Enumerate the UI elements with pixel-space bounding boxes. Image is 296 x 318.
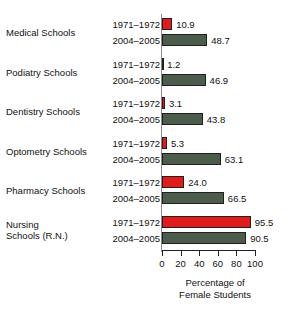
bar-value-label: 46.9 — [210, 75, 229, 86]
bar — [162, 176, 184, 188]
bar-group: Medical Schools1971–197210.92004–200548.… — [0, 14, 296, 52]
period-label: 1971–1972 — [106, 98, 160, 109]
bar-row: 2004–200546.9 — [0, 73, 296, 88]
bar-value-label: 1.2 — [167, 59, 180, 70]
bar-row: 1971–197210.9 — [0, 17, 296, 32]
bar-group-series: 1971–197210.92004–200548.7 — [0, 14, 296, 52]
period-label: 2004–2005 — [106, 75, 160, 86]
bar-group: Nursing Schools (R.N.)1971–197295.52004–… — [0, 212, 296, 250]
bar — [162, 192, 224, 204]
bar-row: 1971–19721.2 — [0, 57, 296, 72]
bar-value-label: 63.1 — [225, 154, 244, 165]
bar — [162, 97, 165, 109]
period-label: 1971–1972 — [106, 138, 160, 149]
bar-value-label: 5.3 — [171, 138, 184, 149]
bar-row: 2004–200543.8 — [0, 112, 296, 127]
bar — [162, 34, 207, 46]
bar-value-label: 48.7 — [211, 35, 230, 46]
bar — [162, 216, 251, 228]
axis-tick — [218, 250, 219, 256]
bar-group-series: 1971–197224.02004–200566.5 — [0, 172, 296, 210]
bar-group-series: 1971–19725.32004–200563.1 — [0, 133, 296, 171]
period-label: 1971–1972 — [106, 19, 160, 30]
axis-tick-label: 100 — [243, 258, 267, 269]
bar-row: 1971–19725.3 — [0, 136, 296, 151]
period-label: 2004–2005 — [106, 114, 160, 125]
period-label: 1971–1972 — [106, 59, 160, 70]
bar — [162, 74, 206, 86]
bar — [162, 18, 172, 30]
bar-row: 2004–200563.1 — [0, 152, 296, 167]
x-axis: 020406080100 Percentage of Female Studen… — [0, 250, 296, 318]
period-label: 1971–1972 — [106, 217, 160, 228]
bar-value-label: 66.5 — [228, 193, 247, 204]
axis-tick — [162, 250, 163, 256]
x-axis-title: Percentage of Female Students — [150, 277, 280, 301]
bar-group: Optometry Schools1971–19725.32004–200563… — [0, 133, 296, 171]
bar-group-series: 1971–19723.12004–200543.8 — [0, 93, 296, 131]
period-label: 1971–1972 — [106, 177, 160, 188]
bar-group-series: 1971–197295.52004–200590.5 — [0, 212, 296, 250]
period-label: 2004–2005 — [106, 154, 160, 165]
bar-row: 1971–197295.5 — [0, 215, 296, 230]
bar-value-label: 24.0 — [188, 177, 207, 188]
bar-value-label: 95.5 — [255, 217, 274, 228]
period-label: 2004–2005 — [106, 35, 160, 46]
axis-tick — [236, 250, 237, 256]
bar-row: 2004–200548.7 — [0, 33, 296, 48]
period-label: 2004–2005 — [106, 193, 160, 204]
bar — [162, 113, 203, 125]
bar — [162, 137, 167, 149]
bar-value-label: 43.8 — [207, 114, 226, 125]
bar-value-label: 10.9 — [176, 19, 195, 30]
bar — [162, 58, 164, 70]
bar-group: Dentistry Schools1971–19723.12004–200543… — [0, 93, 296, 131]
bar-value-label: 3.1 — [169, 98, 182, 109]
bar-chart: Medical Schools1971–197210.92004–200548.… — [0, 0, 296, 318]
bar-value-label: 90.5 — [250, 233, 269, 244]
bar-row: 2004–200566.5 — [0, 191, 296, 206]
bar-row: 1971–19723.1 — [0, 96, 296, 111]
axis-tick — [199, 250, 200, 256]
bar — [162, 153, 221, 165]
bar-row: 1971–197224.0 — [0, 175, 296, 190]
x-axis-line — [162, 250, 255, 251]
bar-group-series: 1971–19721.22004–200546.9 — [0, 54, 296, 92]
axis-tick — [255, 250, 256, 256]
bar-group: Podiatry Schools1971–19721.22004–200546.… — [0, 54, 296, 92]
bar-row: 2004–200590.5 — [0, 231, 296, 246]
axis-tick — [181, 250, 182, 256]
period-label: 2004–2005 — [106, 233, 160, 244]
bar — [162, 232, 246, 244]
bar-group: Pharmacy Schools1971–197224.02004–200566… — [0, 172, 296, 210]
